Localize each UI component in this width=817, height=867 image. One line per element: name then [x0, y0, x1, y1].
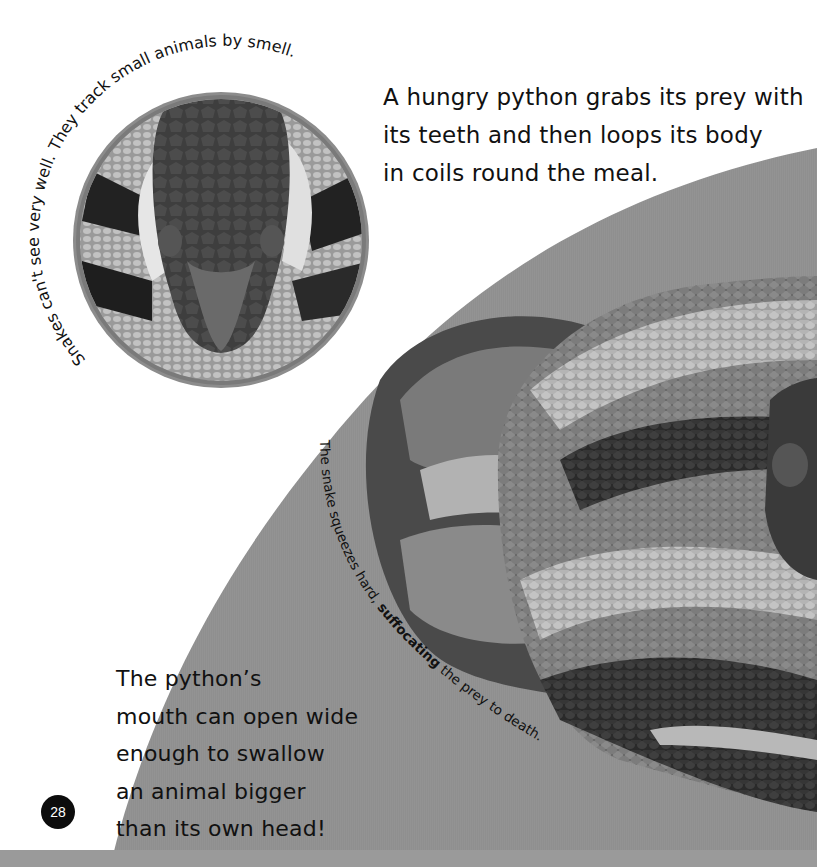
- python-head-closeup-image: [72, 91, 370, 389]
- fact-line: than its own head!: [116, 810, 376, 848]
- book-page: Snakes can't see very well. They track s…: [0, 0, 817, 867]
- fact-line: mouth can open wide: [116, 698, 376, 736]
- intro-line: its teeth and then loops its body: [383, 116, 817, 154]
- intro-line: in coils round the meal.: [383, 154, 817, 192]
- intro-line: A hungry python grabs its prey with: [383, 78, 817, 116]
- fact-line: The python’s: [116, 660, 376, 698]
- page-number-badge: 28: [41, 795, 75, 829]
- fact-line: enough to swallow: [116, 735, 376, 773]
- intro-paragraph: A hungry python grabs its prey with its …: [383, 78, 817, 192]
- fact-paragraph: The python’s mouth can open wide enough …: [116, 660, 376, 848]
- fact-line: an animal bigger: [116, 773, 376, 811]
